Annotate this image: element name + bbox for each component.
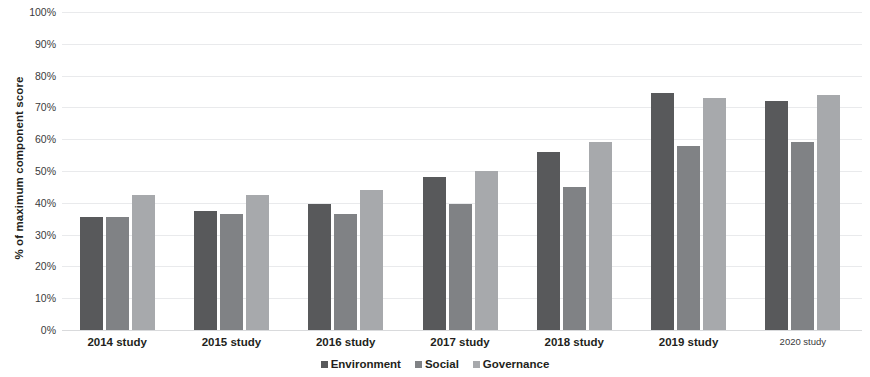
bar-governance-2018: [589, 142, 612, 330]
bar-governance-2016: [360, 190, 383, 330]
plot-area: [62, 12, 862, 330]
bar-series-layer: [62, 12, 862, 330]
bar-group: [651, 12, 726, 330]
bar-environment-2017: [423, 177, 446, 330]
y-axis-tick-label: 10%: [10, 293, 56, 303]
legend-label: Social: [425, 358, 459, 370]
bar-environment-2014: [80, 217, 103, 330]
bar-governance-2014: [132, 195, 155, 330]
legend-swatch-icon: [321, 361, 328, 368]
y-axis-tick-label: 0%: [10, 325, 56, 335]
legend-item-environment[interactable]: Environment: [321, 358, 401, 370]
y-axis-tick-label: 60%: [10, 134, 56, 144]
legend-swatch-icon: [415, 361, 422, 368]
bar-social-2019: [677, 146, 700, 330]
y-axis-tick-label: 100%: [10, 7, 56, 17]
x-axis-labels: 2014 study2015 study2016 study2017 study…: [62, 336, 862, 354]
bar-group: [537, 12, 612, 330]
bar-governance-2015: [246, 195, 269, 330]
legend-item-social[interactable]: Social: [415, 358, 459, 370]
x-axis-label: 2017 study: [423, 336, 498, 348]
y-axis-tick-labels: 0%10%20%30%40%50%60%70%80%90%100%: [6, 12, 56, 330]
bar-group: [80, 12, 155, 330]
bar-social-2015: [220, 214, 243, 330]
bar-group: [423, 12, 498, 330]
bar-environment-2019: [651, 93, 674, 330]
bar-governance-2020: [817, 95, 840, 330]
bar-environment-2018: [537, 152, 560, 330]
x-axis-label: 2015 study: [194, 336, 269, 348]
bar-governance-2019: [703, 98, 726, 330]
legend-item-governance[interactable]: Governance: [473, 358, 549, 370]
legend-label: Governance: [483, 358, 549, 370]
bar-group: [194, 12, 269, 330]
y-axis-tick-label: 70%: [10, 102, 56, 112]
bar-environment-2015: [194, 211, 217, 330]
bar-group: [765, 12, 840, 330]
y-axis-tick-label: 30%: [10, 230, 56, 240]
bar-social-2018: [563, 187, 586, 330]
y-axis-tick-label: 90%: [10, 39, 56, 49]
bar-social-2014: [106, 217, 129, 330]
bar-environment-2016: [308, 204, 331, 330]
bar-social-2020: [791, 142, 814, 330]
x-axis-label: 2018 study: [537, 336, 612, 348]
y-axis-tick-label: 40%: [10, 198, 56, 208]
bar-group: [308, 12, 383, 330]
legend-swatch-icon: [473, 361, 480, 368]
legend-label: Environment: [331, 358, 401, 370]
x-axis-label: 2014 study: [80, 336, 155, 348]
gridline: [62, 330, 862, 331]
bar-environment-2020: [765, 101, 788, 330]
bar-governance-2017: [475, 171, 498, 330]
bar-social-2017: [449, 204, 472, 330]
bar-chart: % of maximum component score 0%10%20%30%…: [0, 0, 870, 377]
y-axis-tick-label: 20%: [10, 261, 56, 271]
x-axis-label: 2020 study: [765, 336, 840, 347]
y-axis-tick-label: 50%: [10, 166, 56, 176]
x-axis-label: 2016 study: [308, 336, 383, 348]
x-axis-label: 2019 study: [651, 336, 726, 348]
bar-social-2016: [334, 214, 357, 330]
chart-legend: EnvironmentSocialGovernance: [0, 358, 870, 370]
y-axis-tick-label: 80%: [10, 71, 56, 81]
